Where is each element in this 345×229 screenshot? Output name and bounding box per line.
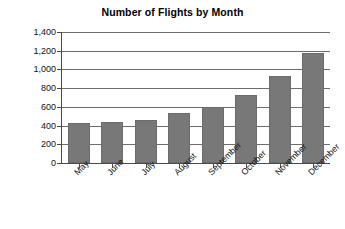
bar-october <box>235 95 257 163</box>
bar-july <box>135 120 157 164</box>
bar-november <box>269 76 291 163</box>
y-tick-label: 1,000 <box>2 64 62 74</box>
bar-may <box>68 123 90 163</box>
y-tick-label: 1,400 <box>2 27 62 37</box>
bar-chart: Number of Flights by Month 0200400600800… <box>0 0 345 229</box>
y-tick-label: 400 <box>2 121 62 131</box>
bar-series <box>62 32 330 163</box>
y-tick-label: 600 <box>2 102 62 112</box>
bar-june <box>101 122 123 163</box>
y-tick-label: 0 <box>2 158 62 168</box>
y-tick-label: 1,200 <box>2 46 62 56</box>
y-tick-label: 200 <box>2 139 62 149</box>
y-tick-label: 800 <box>2 83 62 93</box>
chart-title: Number of Flights by Month <box>0 6 345 18</box>
